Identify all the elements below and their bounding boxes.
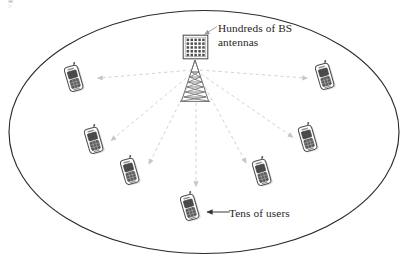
bs-antennas-label-line1: Hundreds of BS [218, 22, 292, 36]
beam-to-user-1 [100, 70, 192, 78]
user-handset-4 [179, 190, 202, 222]
beam-to-user-2 [113, 74, 191, 139]
user-handset-1 [63, 61, 86, 93]
scan-artifact [8, 1, 13, 9]
user-handset-6 [297, 121, 320, 153]
user-handset-7 [314, 59, 337, 91]
bs-antenna-panel [183, 35, 208, 59]
user-handset-2 [83, 123, 106, 155]
beam-to-user-3 [150, 76, 193, 162]
beam-to-user-7 [200, 70, 305, 78]
diagram-svg [0, 0, 408, 272]
bs-antennas-label: Hundreds of BS antennas [218, 22, 292, 49]
mobile-users [63, 59, 337, 222]
user-handset-3 [119, 154, 142, 186]
users-label: Tens of users [229, 207, 290, 220]
figure-canvas: Hundreds of BS antennas Tens of users [0, 0, 408, 272]
bs-antennas-label-line2: antennas [218, 36, 292, 50]
bs-callout-arrow [205, 27, 218, 35]
base-station [180, 35, 210, 101]
bs-tower-icon [180, 60, 210, 101]
user-handset-5 [251, 155, 274, 187]
